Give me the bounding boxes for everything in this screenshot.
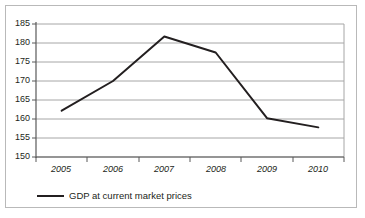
ytick-label-180: 180 xyxy=(15,37,30,47)
xtick-label-2009: 2009 xyxy=(256,164,277,174)
chart-legend: GDP at current market prices xyxy=(37,190,192,201)
ytick-label-170: 170 xyxy=(15,75,30,85)
x-axis-ticks xyxy=(36,157,344,162)
ytick-label-160: 160 xyxy=(15,113,30,123)
ytick-label-165: 165 xyxy=(15,94,30,104)
ytick-label-185: 185 xyxy=(15,18,30,28)
xtick-label-2005: 2005 xyxy=(50,164,72,174)
xtick-label-2008: 2008 xyxy=(205,164,226,174)
series-line-gdp xyxy=(62,37,319,128)
ytick-label-175: 175 xyxy=(15,56,30,66)
xtick-label-2007: 2007 xyxy=(153,164,175,174)
line-chart: 185 180 175 170 165 160 155 150 2005 200… xyxy=(0,0,365,218)
legend-label-gdp: GDP at current market prices xyxy=(69,190,192,201)
y-axis-tick-labels: 185 180 175 170 165 160 155 150 xyxy=(15,18,30,161)
ytick-label-150: 150 xyxy=(15,151,30,161)
x-axis-tick-labels: 2005 2006 2007 2008 2009 2010 xyxy=(50,164,328,174)
chart-figure: 185 180 175 170 165 160 155 150 2005 200… xyxy=(0,0,365,218)
xtick-label-2010: 2010 xyxy=(307,164,328,174)
xtick-label-2006: 2006 xyxy=(102,164,123,174)
ytick-label-155: 155 xyxy=(15,132,30,142)
